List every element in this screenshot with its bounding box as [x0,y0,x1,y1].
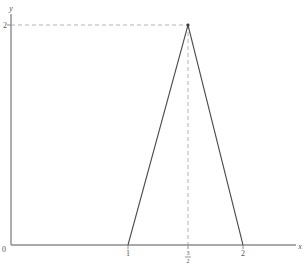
y-tick-label-2: 2 [3,21,7,30]
y-axis-label: y [8,4,13,13]
plot-canvas: y x 0 2 1 3 2 2 [0,0,307,266]
x-tick-label-1: 1 [126,249,130,258]
triangular-curve [128,25,243,245]
fraction-denominator: 2 [187,258,190,264]
peak-point-marker [186,23,189,26]
chart-figure: y x 0 2 1 3 2 2 [0,0,307,266]
x-tick-label-2: 2 [241,249,245,258]
fraction-numerator: 3 [187,250,190,256]
origin-tick-label: 0 [2,245,6,254]
x-tick-label-three-halves: 3 2 [185,250,191,264]
x-axis-label: x [297,242,302,251]
